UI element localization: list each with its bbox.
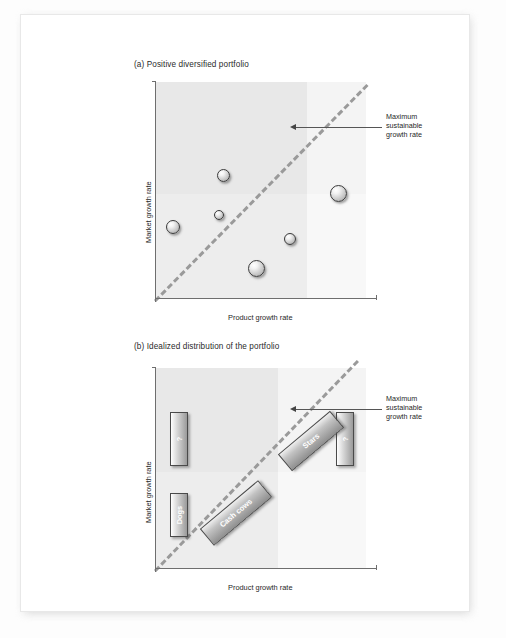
data-point <box>166 220 180 234</box>
data-point <box>330 185 347 202</box>
figure-a-annotation-line <box>296 127 382 128</box>
figure-a-annotation-line-3: growth rate <box>386 131 422 140</box>
figure-b-annotation-arrow-icon <box>290 406 296 412</box>
figure-b-annotation-line <box>296 409 382 410</box>
quadrant-top-left <box>156 82 307 194</box>
figure-b-x-axis-end-tick <box>376 565 377 570</box>
figure-b: (b) Idealized distribution of the portfo… <box>34 328 454 596</box>
figure-b-annotation-line-3: growth rate <box>386 413 422 422</box>
figure-a-y-axis-top-tick <box>152 81 156 82</box>
box-question-mark-upper-left: ? <box>170 412 188 466</box>
figure-a-x-axis-end-tick <box>376 295 377 300</box>
figure-a-x-axis-label: Product growth rate <box>228 313 293 322</box>
figure-b-y-axis <box>155 367 156 569</box>
figure-a-title: (a) Positive diversified portfolio <box>134 60 249 69</box>
figure-a-annotation-arrow-icon <box>290 124 296 130</box>
figure-a-plot <box>156 82 366 298</box>
box-label: Stars <box>301 431 321 450</box>
data-point <box>217 169 230 182</box>
box-label: ? <box>175 437 184 442</box>
data-point <box>284 233 296 245</box>
quadrant-bottom-right <box>278 472 366 568</box>
data-point <box>214 210 224 220</box>
page-background: (a) Positive diversified portfolio <box>0 0 506 638</box>
figure-a-y-axis-label: Market growth rate <box>144 181 153 243</box>
figure-b-plot: ? ? Dogs Stars Cash cows <box>156 368 366 568</box>
figure-a-y-axis <box>155 81 156 299</box>
figure-b-title: (b) Idealized distribution of the portfo… <box>134 342 279 351</box>
page-content-area: (a) Positive diversified portfolio <box>34 28 454 596</box>
figure-a: (a) Positive diversified portfolio <box>34 28 454 313</box>
figure-b-x-axis <box>155 568 376 569</box>
data-point <box>248 260 265 277</box>
figure-b-origin-tick <box>155 568 156 572</box>
figure-b-x-axis-label: Product growth rate <box>228 583 293 592</box>
page-sheet: (a) Positive diversified portfolio <box>20 14 470 612</box>
box-label: ? <box>341 437 350 442</box>
figure-a-x-axis <box>155 298 376 299</box>
figure-b-y-axis-label: Market growth rate <box>144 461 153 523</box>
box-question-mark-upper-right: ? <box>336 412 354 466</box>
figure-a-origin-tick <box>155 298 156 302</box>
figure-b-y-axis-top-tick <box>152 367 156 368</box>
quadrant-bottom-left <box>156 194 307 298</box>
box-dogs: Dogs <box>170 493 188 537</box>
box-label: Dogs <box>175 506 184 524</box>
quadrant-bottom-right <box>307 194 366 298</box>
